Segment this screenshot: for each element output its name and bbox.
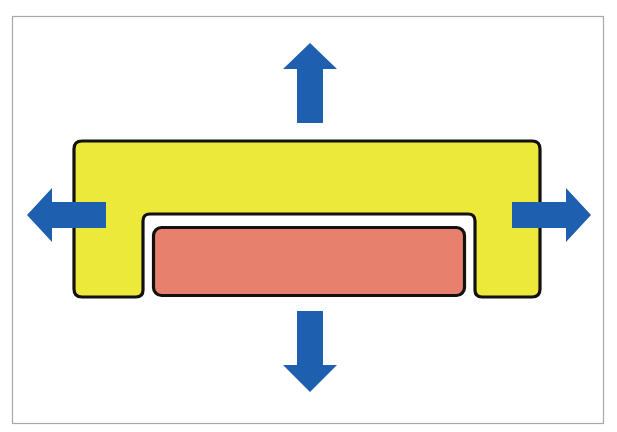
expansion-diagram [0,0,617,432]
diagram-canvas [0,0,617,432]
inner-block [154,228,465,296]
